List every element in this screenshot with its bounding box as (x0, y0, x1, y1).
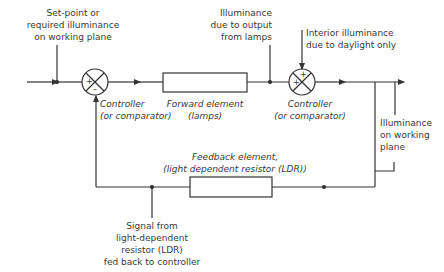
setpoint-label: Set-point or required illuminance on wor… (18, 7, 128, 43)
daylight-label: Interior illuminance due to daylight onl… (306, 27, 396, 51)
lamp-illuminance-label: Illuminance due to output from lamps (200, 7, 272, 43)
feedback-element-label: Feedback element, (light dependent resis… (160, 151, 310, 175)
forward-element-box (163, 73, 247, 92)
working-plane-label: Illuminance on working plane (380, 117, 432, 153)
controller2-label: Controller (or comparator) (270, 98, 350, 122)
c2-plus-top-sign: + (300, 71, 307, 79)
forward-element-label: Forward element (lamps) (160, 98, 250, 122)
c1-plus-sign: + (86, 78, 93, 86)
feedback-element-box (190, 177, 272, 197)
c2-plus-left-sign: + (293, 79, 300, 87)
c1-minus-sign: – (93, 86, 97, 94)
signal-label: Signal from light-dependent resistor (LD… (92, 220, 212, 268)
